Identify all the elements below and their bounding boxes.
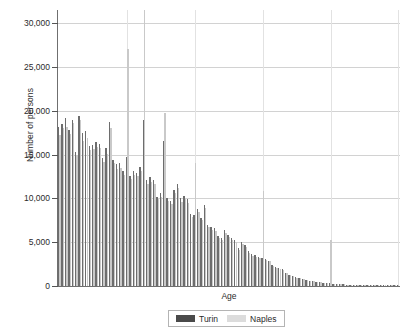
bar-turin (370, 285, 371, 286)
bar-turin (85, 131, 86, 286)
bar-turin (298, 278, 299, 286)
x-axis-title: Age (58, 291, 400, 301)
bar-turin (356, 285, 357, 286)
bar-turin (173, 190, 174, 286)
bar-turin (163, 141, 164, 286)
bar-turin (133, 171, 134, 286)
bar-turin (92, 145, 93, 286)
bar-turin (99, 144, 100, 286)
bar-turin (238, 248, 239, 286)
bar-turin (82, 133, 83, 286)
bar-turin (275, 267, 276, 286)
bar-turin (254, 255, 255, 286)
bar-turin (170, 201, 171, 286)
bar-turin (349, 285, 350, 286)
bar-turin (342, 284, 343, 286)
bar-turin (78, 116, 79, 286)
bar-turin (139, 167, 140, 286)
legend-swatch (176, 315, 195, 322)
plot-area (58, 10, 400, 286)
bar-turin (305, 280, 306, 286)
bar-turin (95, 142, 96, 286)
bar-turin (319, 282, 320, 286)
bar-turin (387, 285, 388, 286)
age-distribution-bar-chart: Number of persons 05,00010,00015,00020,0… (0, 0, 408, 333)
bar-turin (339, 284, 340, 286)
bar-turin (383, 285, 384, 286)
bar-turin (72, 120, 73, 286)
bar-turin (397, 285, 398, 286)
bar-turin (109, 122, 110, 286)
bar-turin (75, 152, 76, 286)
bar-turin (302, 279, 303, 286)
bar-series-group (58, 10, 400, 286)
bar-turin (58, 127, 59, 286)
y-axis-tick-label: 30,000 (24, 18, 50, 28)
bar-turin (160, 193, 161, 286)
bar-turin (217, 236, 218, 286)
bar-turin (227, 235, 228, 286)
legend-swatch (227, 315, 246, 322)
bar-turin (278, 268, 279, 286)
bar-turin (376, 285, 377, 286)
y-axis-tick-mark (52, 23, 58, 24)
bar-turin (105, 148, 106, 286)
bar-turin (214, 228, 215, 286)
bar-turin (251, 254, 252, 286)
bar-turin (366, 285, 367, 286)
bar-turin (68, 130, 69, 286)
bar-turin (156, 197, 157, 286)
legend-label: Naples (250, 314, 276, 324)
bar-turin (393, 285, 394, 286)
bar-turin (295, 277, 296, 286)
y-axis-tick-label: 15,000 (24, 150, 50, 160)
bar-turin (129, 176, 130, 286)
bar-turin (126, 157, 127, 286)
y-axis-tick-mark (52, 286, 58, 287)
bar-turin (119, 163, 120, 286)
bar-turin (143, 120, 144, 286)
bar-turin (241, 242, 242, 286)
y-axis-tick-mark (52, 111, 58, 112)
bar-turin (346, 285, 347, 286)
bar-turin (89, 146, 90, 286)
bar-turin (190, 214, 191, 286)
bar-turin (265, 259, 266, 286)
bar-turin (210, 227, 211, 286)
bar-turin (149, 177, 150, 286)
y-axis-tick-mark (52, 67, 58, 68)
bar-turin (329, 283, 330, 286)
legend-entry: Naples (227, 314, 276, 324)
y-axis-tick-labels: 05,00010,00015,00020,00025,00030,000 (0, 0, 50, 333)
bar-turin (268, 261, 269, 286)
bar-turin (183, 196, 184, 286)
bar-turin (207, 225, 208, 286)
bar-turin (180, 198, 181, 286)
bar-turin (326, 283, 327, 286)
y-axis-tick-mark (52, 242, 58, 243)
bar-turin (322, 283, 323, 286)
legend-label: Turin (199, 314, 218, 324)
bar-turin (285, 273, 286, 286)
legend-entry: Turin (176, 314, 218, 324)
y-axis-tick-label: 20,000 (24, 106, 50, 116)
x-axis-line (58, 286, 400, 287)
bar-turin (102, 158, 103, 286)
bar-turin (373, 285, 374, 286)
bar-turin (136, 173, 137, 286)
y-axis-tick-label: 5,000 (29, 237, 50, 247)
bar-turin (288, 275, 289, 286)
bar-turin (166, 198, 167, 286)
bar-turin (332, 284, 333, 286)
bar-turin (363, 285, 364, 286)
bar-turin (309, 281, 310, 286)
bar-turin (187, 199, 188, 286)
bar-turin (258, 257, 259, 286)
bar-turin (353, 285, 354, 286)
bar-turin (221, 238, 222, 286)
bar-turin (271, 265, 272, 286)
bar-turin (200, 218, 201, 286)
bar-turin (197, 209, 198, 286)
bar-turin (224, 230, 225, 286)
bar-turin (65, 118, 66, 286)
